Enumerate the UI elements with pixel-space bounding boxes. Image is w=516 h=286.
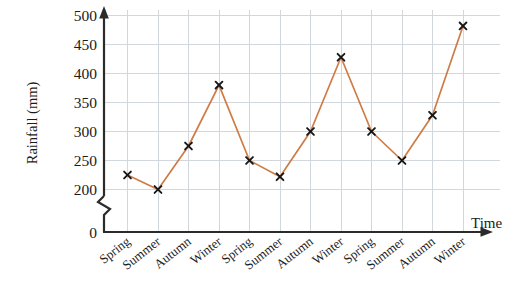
y-tick-350: 350 [74,94,98,111]
x-tick-12: Winter [431,233,469,267]
y-tick-300: 300 [74,123,98,140]
vertical-gridlines [128,10,464,232]
horizontal-gridlines [104,16,500,190]
y-tick-450: 450 [74,36,98,53]
data-point-markers [124,23,466,193]
y-tick-400: 400 [74,65,98,82]
chart-canvas: 500 450 400 350 300 250 200 0 Rainfall (… [0,0,516,286]
y-tick-500: 500 [74,7,98,24]
rainfall-line-chart: 500 450 400 350 300 250 200 0 Rainfall (… [0,0,516,286]
x-tick-4: Winter [187,233,225,267]
x-axis [103,227,493,237]
y-axis [98,6,110,232]
y-axis-arrowhead-icon [99,6,109,19]
x-tick-8: Winter [309,233,347,267]
y-axis-break-icon [98,196,110,232]
y-axis-title: Rainfall (mm) [24,82,41,165]
y-tick-200: 200 [74,181,98,198]
x-tick-labels: Spring Summer Autumn Winter Spring Summe… [96,233,469,272]
rainfall-series-line [128,26,464,190]
y-tick-0: 0 [89,224,97,241]
y-tick-250: 250 [74,152,98,169]
x-axis-title: Time [471,215,502,231]
y-tick-labels: 500 450 400 350 300 250 200 0 [74,7,98,241]
